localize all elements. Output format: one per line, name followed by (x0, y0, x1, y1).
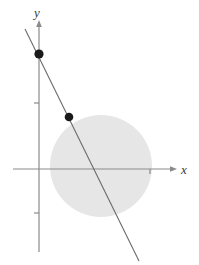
lower-point (65, 113, 74, 122)
upper-point (34, 49, 43, 58)
shaded-disk (50, 115, 152, 217)
x-axis-label: x (180, 162, 187, 177)
coordinate-plane-svg: y x (0, 0, 199, 265)
math-figure: y x (0, 0, 199, 265)
y-axis-arrowhead (36, 20, 42, 27)
x-axis-arrowhead (170, 166, 177, 172)
y-axis-label: y (32, 5, 40, 20)
